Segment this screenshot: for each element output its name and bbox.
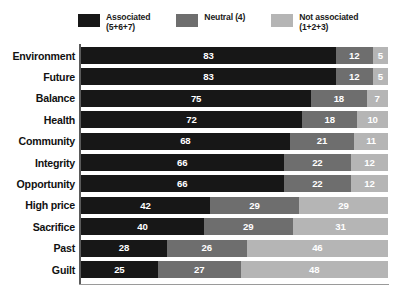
bar-segment-1[interactable]: 26 xyxy=(167,240,247,257)
category-label-past: Past xyxy=(0,238,79,259)
bar-row: Community682111 xyxy=(0,131,405,152)
chart-root: Associated(5+6+7)Neutral (4)Not associat… xyxy=(0,0,405,301)
bar-segment-1[interactable]: 29 xyxy=(204,218,293,235)
bar-row: Future83125 xyxy=(0,66,405,87)
category-label-integrity: Integrity xyxy=(0,152,79,173)
category-label-health: Health xyxy=(0,109,79,130)
stacked-bar: 252748 xyxy=(81,261,388,278)
bar-segment-2[interactable]: 5 xyxy=(373,47,388,64)
bar-value-label: 12 xyxy=(364,179,374,189)
legend-label-1: Neutral (4) xyxy=(204,12,245,22)
bar-row: Health721810 xyxy=(0,109,405,130)
bar-segment-2[interactable]: 48 xyxy=(241,261,388,278)
bar-segment-0[interactable]: 25 xyxy=(81,261,158,278)
bar-value-label: 22 xyxy=(312,158,322,168)
x-axis-line xyxy=(79,284,389,285)
legend-swatch-associated xyxy=(78,14,100,27)
bar-value-label: 22 xyxy=(312,179,322,189)
category-label-environment: Environment xyxy=(0,45,79,66)
bar-segment-2[interactable]: 46 xyxy=(247,240,388,257)
bar-segment-0[interactable]: 66 xyxy=(81,175,284,192)
stacked-bar: 682111 xyxy=(81,133,388,150)
bar-segment-1[interactable]: 21 xyxy=(290,133,354,150)
bar-segment-0[interactable]: 68 xyxy=(81,133,290,150)
legend-label-0: Associated(5+6+7) xyxy=(106,12,150,32)
bar-segment-1[interactable]: 29 xyxy=(210,197,299,214)
bar-value-label: 5 xyxy=(378,72,383,82)
bar-value-label: 11 xyxy=(366,136,376,146)
bar-value-label: 12 xyxy=(364,158,374,168)
bar-value-label: 12 xyxy=(349,51,359,61)
bar-row: Sacrifice402931 xyxy=(0,216,405,237)
bar-segment-0[interactable]: 75 xyxy=(81,90,311,107)
bar-segment-1[interactable]: 27 xyxy=(158,261,241,278)
bar-value-label: 26 xyxy=(202,243,212,253)
bar-value-label: 7 xyxy=(375,94,380,104)
bar-value-label: 48 xyxy=(309,265,319,275)
stacked-bar: 662212 xyxy=(81,175,388,192)
bar-value-label: 40 xyxy=(137,222,147,232)
bar-value-label: 83 xyxy=(203,72,213,82)
stacked-bar: 75187 xyxy=(81,90,388,107)
bar-value-label: 29 xyxy=(243,222,253,232)
stacked-bar: 282646 xyxy=(81,240,388,257)
bar-value-label: 31 xyxy=(335,222,345,232)
bar-segment-2[interactable]: 10 xyxy=(357,111,388,128)
bar-segment-2[interactable]: 31 xyxy=(293,218,388,235)
bar-value-label: 27 xyxy=(194,265,204,275)
bar-value-label: 66 xyxy=(177,158,187,168)
bar-value-label: 18 xyxy=(324,115,334,125)
bar-segment-2[interactable]: 5 xyxy=(373,68,388,85)
bar-value-label: 12 xyxy=(349,72,359,82)
legend-swatch-neutral xyxy=(176,14,198,27)
bar-segment-1[interactable]: 22 xyxy=(284,175,352,192)
bar-row: Past282646 xyxy=(0,238,405,259)
bar-segment-0[interactable]: 28 xyxy=(81,240,167,257)
bar-row: Integrity662212 xyxy=(0,152,405,173)
stacked-bar: 83125 xyxy=(81,68,388,85)
bar-segment-2[interactable]: 12 xyxy=(351,175,388,192)
bar-value-label: 18 xyxy=(334,94,344,104)
bar-value-label: 46 xyxy=(312,243,322,253)
category-label-community: Community xyxy=(0,131,79,152)
legend-label-2: Not associated(1+2+3) xyxy=(299,12,358,32)
chart-legend: Associated(5+6+7)Neutral (4)Not associat… xyxy=(78,12,398,40)
bar-segment-0[interactable]: 40 xyxy=(81,218,204,235)
bar-segment-0[interactable]: 42 xyxy=(81,197,210,214)
bar-segment-1[interactable]: 12 xyxy=(336,47,373,64)
bar-segment-0[interactable]: 66 xyxy=(81,154,284,171)
bar-value-label: 75 xyxy=(191,94,201,104)
stacked-bar: 402931 xyxy=(81,218,388,235)
legend-entry-0[interactable]: Associated(5+6+7) xyxy=(78,12,150,32)
bar-row: Environment83125 xyxy=(0,45,405,66)
chart-plot-area: Environment83125Future83125Balance75187H… xyxy=(0,44,405,289)
bar-value-label: 66 xyxy=(177,179,187,189)
bar-segment-2[interactable]: 11 xyxy=(354,133,388,150)
bar-segment-1[interactable]: 22 xyxy=(284,154,352,171)
legend-entry-2[interactable]: Not associated(1+2+3) xyxy=(271,12,358,32)
legend-swatch-not-associated xyxy=(271,14,293,27)
bar-segment-0[interactable]: 83 xyxy=(81,47,336,64)
bar-segment-1[interactable]: 18 xyxy=(302,111,357,128)
stacked-bar: 662212 xyxy=(81,154,388,171)
bar-value-label: 28 xyxy=(119,243,129,253)
stacked-bar: 83125 xyxy=(81,47,388,64)
stacked-bar: 721810 xyxy=(81,111,388,128)
category-label-opportunity: Opportunity xyxy=(0,173,79,194)
bar-value-label: 83 xyxy=(203,51,213,61)
bar-row: Opportunity662212 xyxy=(0,173,405,194)
bar-segment-0[interactable]: 83 xyxy=(81,68,336,85)
bar-segment-1[interactable]: 12 xyxy=(336,68,373,85)
category-label-future: Future xyxy=(0,66,79,87)
bar-segment-0[interactable]: 72 xyxy=(81,111,302,128)
bar-value-label: 29 xyxy=(338,201,348,211)
bar-segment-2[interactable]: 7 xyxy=(367,90,388,107)
bar-segment-2[interactable]: 29 xyxy=(299,197,388,214)
category-label-high-price: High price xyxy=(0,195,79,216)
legend-entry-1[interactable]: Neutral (4) xyxy=(176,12,245,27)
bar-value-label: 29 xyxy=(249,201,259,211)
bar-value-label: 72 xyxy=(186,115,196,125)
bar-segment-2[interactable]: 12 xyxy=(351,154,388,171)
bar-segment-1[interactable]: 18 xyxy=(311,90,366,107)
bar-value-label: 68 xyxy=(180,136,190,146)
